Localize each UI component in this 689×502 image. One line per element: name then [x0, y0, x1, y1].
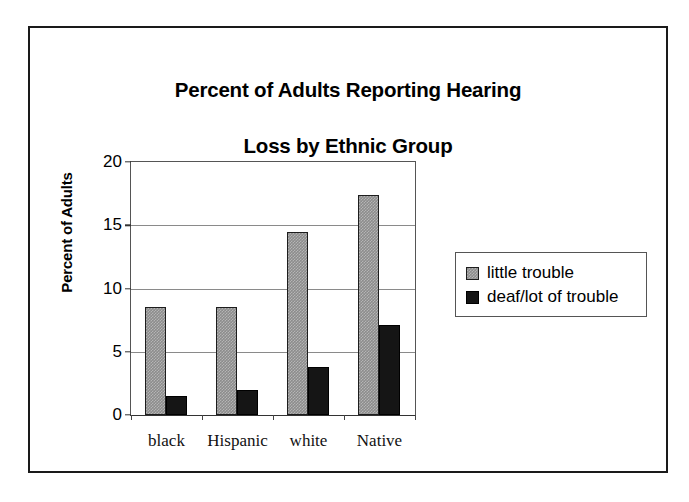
y-tick-label: 15 [103, 215, 122, 235]
bar-group [273, 162, 344, 415]
y-tick-label: 20 [103, 152, 122, 172]
x-tick-mark [131, 415, 132, 420]
y-tick-label: 5 [113, 342, 122, 362]
x-tick-mark [202, 415, 203, 420]
legend-item-deaf-lot-of-trouble: deaf/lot of trouble [466, 288, 636, 306]
chart-title-line-1: Percent of Adults Reporting Hearing [175, 78, 521, 101]
legend-item-little-trouble: little trouble [466, 264, 636, 282]
x-tick-mark [344, 415, 345, 420]
legend-swatch-little-trouble-icon [466, 267, 479, 280]
bar [379, 325, 400, 415]
legend-swatch-deaf-lot-of-trouble-icon [466, 291, 479, 304]
x-tick-label: Hispanic [207, 431, 267, 451]
bar [308, 367, 329, 415]
x-tick-mark [273, 415, 274, 420]
bar [216, 307, 237, 415]
bar [166, 396, 187, 415]
bar [237, 390, 258, 415]
figure-frame: Percent of Adults Reporting Hearing Loss… [28, 26, 668, 473]
chart-title: Percent of Adults Reporting Hearing Loss… [30, 48, 666, 160]
bar-group [131, 162, 202, 415]
x-tick-label: Native [357, 431, 402, 451]
x-tick-mark [415, 415, 416, 420]
bar [358, 195, 379, 415]
x-tick-label: white [290, 431, 328, 451]
bar-group [344, 162, 415, 415]
y-tick-label: 0 [113, 405, 122, 425]
y-axis-title: Percent of Adults [58, 153, 75, 313]
legend-label-deaf-lot-of-trouble: deaf/lot of trouble [487, 288, 618, 306]
legend-label-little-trouble: little trouble [487, 264, 574, 282]
x-tick-label: black [148, 431, 185, 451]
bar [145, 307, 166, 415]
chart-legend: little trouble deaf/lot of trouble [455, 252, 647, 317]
chart-title-line-2: Loss by Ethnic Group [244, 134, 453, 157]
bar-group [202, 162, 273, 415]
bar [287, 232, 308, 415]
y-tick-label: 10 [103, 279, 122, 299]
plot-area: 05101520blackHispanicwhiteNative [130, 161, 416, 416]
